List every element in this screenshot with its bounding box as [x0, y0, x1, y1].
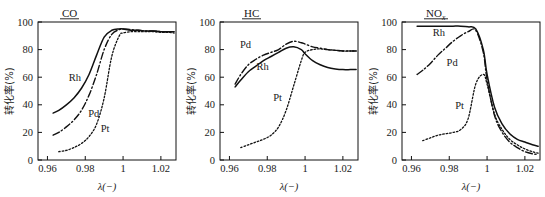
figure-three-panel-conversion-chart: 0204060801000.960.9811.02λ(−)转化率(%)CORhP… — [0, 0, 545, 197]
y-tick-label: 100 — [381, 17, 397, 28]
y-tick-label: 0 — [28, 155, 33, 166]
curve-label-rh: Rh — [69, 72, 82, 83]
y-tick-label: 0 — [210, 155, 215, 166]
y-tick-label: 40 — [23, 99, 34, 110]
curve-pd — [417, 29, 538, 155]
x-tick-label: 0.98 — [76, 163, 94, 174]
y-tick-label: 60 — [205, 72, 216, 83]
y-tick-label: 80 — [387, 44, 398, 55]
curves-group — [53, 29, 174, 152]
curves-group — [417, 26, 538, 154]
x-tick-label: 0.96 — [402, 163, 420, 174]
y-tick-label: 100 — [199, 17, 215, 28]
y-tick-label: 20 — [387, 127, 398, 138]
curve-rh — [53, 29, 174, 113]
x-axis-title: λ(−) — [279, 181, 299, 193]
y-axis-title: 转化率(%) — [185, 67, 197, 114]
chart-panel-hc: 0204060801000.960.9811.02λ(−)转化率(%)HCRhP… — [182, 0, 364, 197]
y-tick-label: 20 — [205, 127, 216, 138]
y-tick-label: 20 — [23, 127, 34, 138]
panel-title: NOx — [426, 7, 446, 22]
y-tick-label: 100 — [17, 17, 33, 28]
curve-rh — [417, 26, 538, 146]
x-tick-label: 0.96 — [220, 163, 238, 174]
panel-title-subscript: x — [441, 13, 446, 22]
y-axis-title: 转化率(%) — [367, 67, 379, 114]
y-tick-label: 80 — [205, 44, 216, 55]
chart-panel-nox: 0204060801000.960.9811.02λ(−)转化率(%)NOxRh… — [364, 0, 545, 197]
curve-label-rh: Rh — [256, 61, 269, 72]
curve-pt — [59, 32, 174, 152]
x-tick-label: 0.96 — [38, 163, 56, 174]
curve-label-pd: Pd — [240, 39, 252, 50]
chart-panel-co: 0204060801000.960.9811.02λ(−)转化率(%)CORhP… — [0, 0, 182, 197]
panel-title: HC — [244, 7, 259, 19]
y-tick-label: 80 — [23, 44, 34, 55]
curve-label-pt: Pt — [455, 100, 464, 111]
curves-group — [235, 41, 356, 147]
y-tick-label: 0 — [392, 155, 397, 166]
panel-title: CO — [62, 7, 77, 19]
y-tick-label: 40 — [205, 99, 216, 110]
curve-label-pd: Pd — [88, 108, 100, 119]
x-tick-label: 1.02 — [152, 163, 170, 174]
curve-label-pt: Pt — [273, 92, 282, 103]
curve-label-pd: Pd — [447, 57, 459, 68]
plot-frame — [402, 22, 540, 160]
x-tick-label: 0.98 — [258, 163, 276, 174]
y-tick-label: 60 — [23, 72, 34, 83]
x-tick-label: 1.02 — [334, 163, 352, 174]
x-tick-label: 1 — [302, 163, 307, 174]
y-tick-label: 60 — [387, 72, 398, 83]
curve-rh — [235, 47, 356, 87]
x-tick-label: 1.02 — [516, 163, 534, 174]
y-axis-title: 转化率(%) — [3, 67, 15, 114]
x-tick-label: 0.98 — [440, 163, 458, 174]
y-tick-label: 40 — [387, 99, 398, 110]
x-axis-title: λ(−) — [461, 181, 481, 193]
x-axis-title: λ(−) — [97, 181, 117, 193]
x-tick-label: 1 — [120, 163, 125, 174]
curve-label-rh: Rh — [433, 27, 446, 38]
x-tick-label: 1 — [484, 163, 489, 174]
curve-label-pt: Pt — [101, 123, 110, 134]
